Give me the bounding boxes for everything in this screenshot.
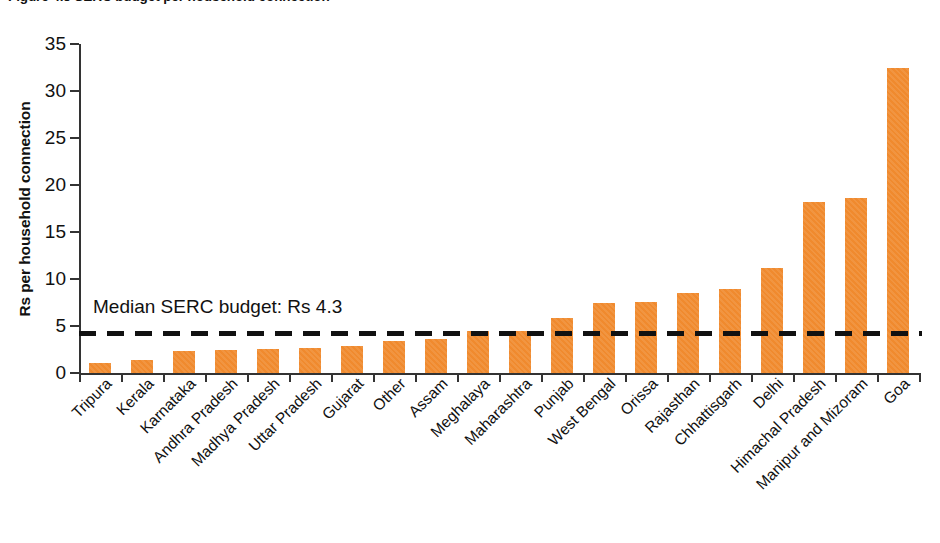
y-axis-tick-label: 15	[45, 221, 66, 243]
y-axis-tick-label: 35	[45, 33, 66, 55]
y-axis-tick	[70, 90, 79, 92]
x-axis-tick	[79, 373, 81, 382]
y-axis-tick	[70, 278, 79, 280]
y-axis-tick-label: 20	[45, 174, 66, 196]
y-axis-tick-label: 10	[45, 268, 66, 290]
figure-title: Figure 4.5 SERC budget per household con…	[8, 0, 330, 4]
y-axis-tick-label: 0	[55, 362, 66, 384]
plot-area: 05101520253035 Median SERC budget: Rs 4.…	[79, 44, 919, 373]
y-axis-tick-label: 25	[45, 127, 66, 149]
y-axis-tick-label: 30	[45, 80, 66, 102]
x-axis-label-text: Tripura	[68, 375, 115, 422]
y-axis-tick	[70, 325, 79, 327]
y-axis-tick	[70, 184, 79, 186]
y-axis-tick	[70, 372, 79, 374]
y-axis-tick	[70, 43, 79, 45]
figure-root: Figure 4.5 SERC budget per household con…	[0, 0, 940, 543]
y-axis-tick	[70, 231, 79, 233]
bar	[803, 202, 825, 373]
y-axis-title-label: Rs per household connection	[16, 101, 34, 316]
bar-series	[79, 44, 919, 373]
bar	[89, 363, 111, 373]
y-axis-tick	[70, 137, 79, 139]
y-axis-title: Rs per household connection	[14, 44, 36, 373]
y-axis-tick-label: 5	[55, 315, 66, 337]
